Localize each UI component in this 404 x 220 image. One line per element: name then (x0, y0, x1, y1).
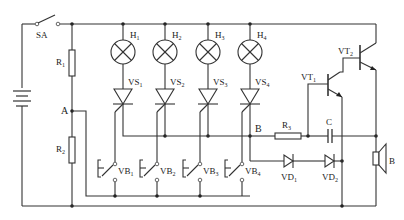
lamp-icon (196, 40, 220, 64)
label-vs4: VS4 (255, 77, 270, 88)
label-sa: SA (36, 30, 48, 40)
resistor-r3 (275, 133, 301, 139)
transistor-vt2-icon: VT2 (338, 24, 376, 152)
push-button-vb2 (140, 160, 159, 198)
label-r1: R1 (56, 57, 65, 68)
label-h4: H4 (257, 30, 267, 41)
push-button-vb3 (183, 160, 202, 198)
diode-vd1-icon (284, 154, 293, 168)
channel-4: H4 VS4 B VB4 (225, 22, 270, 196)
label-h2: H2 (172, 30, 182, 41)
label-speaker: B (389, 156, 395, 166)
label-vb1: VB1 (118, 166, 134, 177)
battery-icon (13, 24, 31, 206)
r3-c-network: R3 C (250, 117, 378, 143)
label-vb2: VB2 (160, 166, 176, 177)
diode-chain: VD1 VD2 (250, 154, 344, 183)
resistor-r2 (69, 137, 75, 163)
resistor-r1 (69, 50, 75, 76)
label-r3: R3 (282, 120, 291, 131)
label-vs2: VS2 (170, 77, 185, 88)
label-c: C (326, 117, 332, 127)
channel-3: H3 VS3 VB3 (183, 22, 228, 198)
label-vb4: VB4 (245, 166, 261, 177)
label-h1: H1 (130, 30, 140, 41)
push-button-vb1 (98, 160, 117, 198)
label-vt1: VT1 (301, 72, 316, 83)
lamp-icon (238, 40, 262, 64)
circuit-diagram: SA R1 A R2 H1 VS (0, 0, 404, 220)
push-button-vb4 (225, 160, 244, 196)
label-b: B (255, 123, 262, 134)
label-h3: H3 (215, 30, 225, 41)
label-vs3: VS3 (213, 77, 228, 88)
capacitor-icon (328, 129, 332, 143)
channel-2: H2 VS2 VB2 (140, 22, 185, 198)
label-vs1: VS1 (128, 77, 143, 88)
label-r2: R2 (56, 144, 65, 155)
diode-vd2-icon (325, 154, 334, 168)
lamp-icon (153, 40, 177, 64)
transistor-vt1-icon: VT1 (301, 72, 344, 208)
label-vd1: VD1 (281, 172, 297, 183)
speaker-icon: B (373, 144, 395, 206)
switch-sa: SA (22, 15, 60, 40)
label-vd2: VD2 (322, 172, 338, 183)
lamp-icon (111, 40, 135, 64)
label-a: A (61, 105, 69, 116)
label-vb3: VB3 (203, 166, 219, 177)
label-vt2: VT2 (338, 46, 353, 57)
